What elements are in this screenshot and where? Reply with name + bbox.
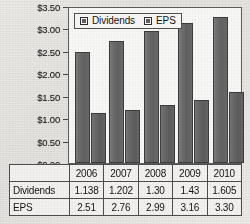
y-axis-tick-label: $3.00 [37,24,60,35]
table-row-label: EPS [10,199,70,216]
bar-eps-2010 [229,92,244,163]
table-cell: 1.605 [207,182,241,199]
y-axis-tick-label: $1.00 [37,114,60,125]
bar-group [172,8,206,163]
chart-screenshot: $3.50$3.00$2.50$2.00$1.50$1.00$0.50$0.00… [0,0,250,224]
y-axis: $3.50$3.00$2.50$2.00$1.50$1.00$0.50$0.00 [0,0,68,164]
table-year-header-2007: 2007 [104,165,138,182]
y-axis-tick-label: $1.50 [37,91,60,102]
bar-dividends-2009 [178,23,193,163]
bar-group [138,8,172,163]
legend-label-dividends: Dividends [92,15,135,26]
table-cell: 2.51 [69,199,103,216]
table-row-label: Dividends [10,182,70,199]
bar-dividends-2006 [75,52,90,163]
table-year-header-2006: 2006 [69,165,103,182]
table-corner-cell [10,165,70,182]
bar-dividends-2008 [144,31,159,163]
bar-group [69,8,103,163]
legend-item-dividends: Dividends [80,15,135,26]
y-axis-tick-label: $2.50 [37,46,60,57]
bar-group [103,8,137,163]
table-row: EPS2.512.762.993.163.30 [10,199,242,216]
table-cell: 1.202 [104,182,138,199]
table-header-row: 20062007200820092010 [10,165,242,182]
table-cell: 1.138 [69,182,103,199]
table-cell: 2.99 [138,199,172,216]
table-cell: 3.30 [207,199,241,216]
table-row: Dividends1.1381.2021.301.431.605 [10,182,242,199]
legend-label-eps: EPS [156,15,176,26]
table-cell: 3.16 [173,199,207,216]
y-axis-tick-label: $2.00 [37,69,60,80]
table-year-header-2009: 2009 [173,165,207,182]
bar-dividends-2010 [213,17,228,163]
y-axis-tick-label: $3.50 [37,2,60,13]
plot-area [68,7,242,164]
table-cell: 1.43 [173,182,207,199]
legend-swatch-eps [144,17,152,25]
table-cell: 1.30 [138,182,172,199]
y-axis-tick-label: $0.50 [37,136,60,147]
legend-swatch-dividends [80,17,88,25]
table-year-header-2010: 2010 [207,165,241,182]
table-year-header-2008: 2008 [138,165,172,182]
chart-legend: Dividends EPS [74,13,182,29]
table-cell: 2.76 [104,199,138,216]
legend-item-eps: EPS [144,15,176,26]
data-table: 20062007200820092010Dividends1.1381.2021… [9,164,242,216]
bar-dividends-2007 [109,41,124,163]
bar-group [207,8,241,163]
